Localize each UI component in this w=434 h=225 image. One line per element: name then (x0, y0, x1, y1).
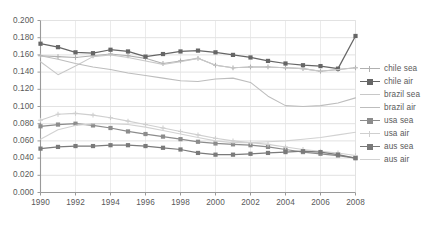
data-point-marker (38, 124, 42, 128)
data-point-marker (143, 132, 147, 136)
data-point-marker (161, 135, 165, 139)
data-point-marker (301, 63, 305, 67)
data-point-marker (108, 115, 113, 120)
legend-swatch-icon (360, 89, 380, 100)
data-point-marker (56, 45, 60, 49)
data-point-marker (73, 55, 78, 60)
y-tick-label: 0.060 (2, 136, 34, 145)
legend-item-brazil-air[interactable]: brazil air (360, 101, 434, 114)
data-point-marker (161, 52, 165, 56)
data-point-marker (108, 143, 112, 147)
data-point-marker (126, 49, 130, 53)
legend-label: usa sea (384, 116, 413, 125)
x-tick-label: 1998 (161, 198, 201, 207)
data-point-marker (126, 129, 130, 133)
y-tick-label: 0.200 (2, 16, 34, 25)
data-point-marker (108, 48, 112, 52)
data-point-marker (283, 150, 287, 154)
data-point-marker (213, 141, 217, 145)
data-point-marker (73, 111, 78, 116)
legend-swatch-icon (360, 141, 380, 152)
y-tick-label: 0.160 (2, 50, 34, 59)
x-tick-label: 1990 (21, 198, 61, 207)
x-tick-label: 1994 (91, 198, 131, 207)
x-tick-label: 2006 (301, 198, 341, 207)
legend-label: aus air (384, 155, 409, 164)
data-point-marker (161, 146, 165, 150)
data-point-marker (196, 49, 200, 53)
y-tick-label: 0.140 (2, 67, 34, 76)
data-point-marker (126, 119, 131, 124)
data-point-marker (231, 53, 235, 57)
data-point-marker (161, 126, 166, 131)
y-tick-label: 0.000 (2, 188, 34, 197)
x-tick-label: 2002 (231, 198, 271, 207)
data-point-marker (73, 144, 77, 148)
data-point-marker (56, 112, 61, 117)
legend-swatch-icon (360, 115, 380, 126)
legend-item-brazil-sea[interactable]: brazil sea (360, 88, 434, 101)
data-point-marker (318, 150, 322, 154)
data-point-marker (178, 49, 182, 53)
series-line-brazil-air (41, 56, 356, 107)
legend-item-aus-air[interactable]: aus air (360, 153, 434, 166)
data-point-marker (301, 149, 305, 153)
y-tick-label: 0.100 (2, 102, 34, 111)
data-point-marker (283, 61, 287, 65)
data-point-marker (108, 126, 112, 130)
data-point-marker (126, 143, 130, 147)
legend-swatch-icon (360, 154, 380, 165)
data-point-marker (108, 52, 113, 57)
data-point-marker (38, 42, 42, 46)
chart-container: 0.2000.1800.1600.1400.1200.1000.0800.060… (0, 0, 434, 225)
data-point-marker (318, 64, 322, 68)
legend-label: usa air (384, 129, 409, 138)
data-point-marker (38, 147, 42, 151)
data-point-marker (336, 153, 340, 157)
data-point-marker (213, 153, 217, 157)
data-point-marker (213, 50, 217, 54)
x-tick-label: 2008 (336, 198, 376, 207)
legend-item-aus-sea[interactable]: aus sea (360, 140, 434, 153)
data-point-marker (91, 51, 95, 55)
data-point-marker (143, 55, 147, 59)
data-point-marker (56, 122, 60, 126)
data-point-marker (353, 156, 357, 160)
legend-swatch-icon (360, 63, 380, 74)
data-point-marker (38, 118, 43, 123)
legend-label: chile air (384, 77, 413, 86)
data-point-marker (178, 147, 182, 151)
data-point-marker (248, 55, 252, 59)
plot-border (38, 21, 356, 196)
data-point-marker (196, 151, 200, 155)
legend-item-chile-air[interactable]: chile air (360, 75, 434, 88)
legend-item-chile-sea[interactable]: chile sea (360, 62, 434, 75)
data-point-marker (231, 153, 235, 157)
legend-item-usa-air[interactable]: usa air (360, 127, 434, 140)
data-point-marker (91, 144, 95, 148)
legend-swatch-icon (360, 128, 380, 139)
data-point-marker (353, 34, 357, 38)
data-point-marker (178, 137, 182, 141)
y-tick-label: 0.180 (2, 33, 34, 42)
x-tick-label: 2000 (196, 198, 236, 207)
data-point-marker (56, 145, 60, 149)
x-tick-label: 1992 (56, 198, 96, 207)
x-tick-label: 2004 (266, 198, 306, 207)
y-tick-label: 0.040 (2, 153, 34, 162)
legend-swatch-icon (360, 102, 380, 113)
data-point-marker (266, 59, 270, 63)
y-tick-label: 0.080 (2, 119, 34, 128)
legend-label: brazil air (384, 103, 416, 112)
data-point-marker (213, 136, 218, 141)
data-point-marker (178, 129, 183, 134)
legend-item-usa-sea[interactable]: usa sea (360, 114, 434, 127)
data-point-marker (196, 140, 200, 144)
data-point-marker (73, 50, 77, 54)
data-point-marker (143, 122, 148, 127)
data-point-marker (196, 132, 201, 137)
data-point-marker (143, 144, 147, 148)
chart-legend: chile seachile airbrazil seabrazil airus… (360, 62, 434, 166)
y-tick-label: 0.020 (2, 170, 34, 179)
data-point-marker (266, 151, 270, 155)
